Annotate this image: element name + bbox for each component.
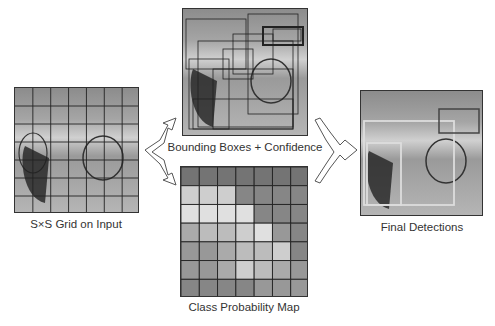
class-map-caption: Class Probability Map bbox=[188, 301, 299, 313]
class-map-grid bbox=[181, 167, 308, 297]
final-caption: Final Detections bbox=[381, 221, 463, 233]
final-detections-panel bbox=[360, 90, 483, 216]
input-caption: S×S Grid on Input bbox=[30, 218, 122, 230]
bounding-boxes-panel bbox=[182, 8, 308, 136]
grid-overlay bbox=[15, 88, 139, 213]
input-image-grid-panel bbox=[14, 87, 139, 213]
boxes-caption: Bounding Boxes + Confidence bbox=[167, 141, 322, 153]
bounding-boxes-overlay bbox=[183, 9, 308, 136]
detections-overlay bbox=[361, 91, 483, 216]
class-probability-map-panel bbox=[180, 166, 308, 297]
yolo-diagram: S×S Grid on Input Bounding Boxes + Confi… bbox=[0, 0, 495, 326]
